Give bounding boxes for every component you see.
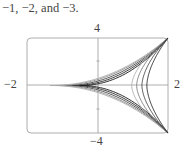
y-min-label: −4 <box>90 134 103 149</box>
level-curve-branch-3 <box>142 38 168 133</box>
x-max-label: 2 <box>174 77 180 92</box>
x-min-label: −2 <box>4 77 17 92</box>
y-max-label: 4 <box>94 21 100 36</box>
level-curves <box>50 38 168 133</box>
level-curve-loop-1 <box>80 38 168 133</box>
